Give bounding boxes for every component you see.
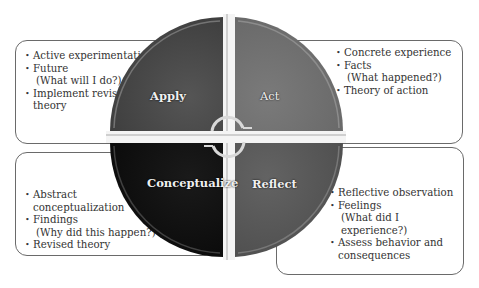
- quadrant-label-reflect: Reflect: [252, 177, 297, 191]
- cycle-wheel: [0, 0, 479, 288]
- quadrant-label-apply: Apply: [150, 89, 186, 103]
- quadrant-reflect: [235, 143, 343, 257]
- quadrant-label-conceptualize: Conceptualize: [147, 176, 238, 190]
- quadrant-act: [235, 17, 343, 131]
- quadrant-label-act: Act: [260, 89, 279, 103]
- quadrant-conceptualize: [110, 143, 223, 257]
- quadrant-apply: [110, 17, 223, 131]
